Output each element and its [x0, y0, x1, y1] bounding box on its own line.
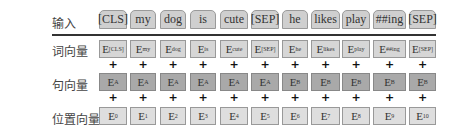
- embedding-subscript: likes: [323, 46, 334, 52]
- plus-icon: +: [346, 60, 366, 70]
- embedding-base: E: [316, 43, 323, 55]
- embedding-base: E: [412, 43, 419, 55]
- embedding-subscript: 6: [297, 113, 300, 119]
- embedding-base: E: [198, 110, 205, 122]
- segment-embedding: EA: [99, 73, 127, 91]
- token-embedding: Eplay: [342, 40, 370, 58]
- embedding-subscript: 7: [327, 113, 330, 119]
- input-token: [CLS]: [99, 10, 127, 29]
- embedding-subscript: A: [204, 79, 208, 85]
- plus-icon: +: [413, 60, 433, 70]
- plus-icon: +: [163, 93, 183, 103]
- plus-icon: +: [285, 93, 305, 103]
- token-embedding: Elikes: [311, 40, 340, 58]
- embedding-subscript: A: [174, 79, 178, 85]
- input-token: likes: [311, 10, 340, 29]
- embedding-subscript: 9: [391, 113, 394, 119]
- segment-embedding: EB: [342, 73, 370, 91]
- input-token: ##ing: [373, 10, 406, 29]
- embedding-subscript: [SEP]: [261, 46, 275, 52]
- embedding-subscript: B: [357, 79, 361, 85]
- segment-embedding: EA: [160, 73, 186, 91]
- embedding-base: E: [320, 76, 327, 88]
- plus-icon: +: [103, 93, 123, 103]
- token-embedding: E##ing: [373, 40, 406, 58]
- embedding-base: E: [108, 110, 115, 122]
- embedding-base: E: [138, 110, 145, 122]
- input-token: cute: [220, 10, 248, 29]
- position-embedding: E5: [251, 107, 279, 125]
- embedding-base: E: [137, 76, 144, 88]
- row-label-input: 输入: [52, 14, 76, 32]
- embedding-base: E: [228, 76, 235, 88]
- embedding-subscript: A: [235, 79, 239, 85]
- position-embedding: E2: [160, 107, 186, 125]
- embedding-base: E: [290, 76, 297, 88]
- plus-icon: +: [255, 93, 275, 103]
- embedding-base: E: [198, 43, 205, 55]
- embedding-subscript: 0: [115, 113, 118, 119]
- segment-embedding: EA: [251, 73, 279, 91]
- embedding-base: E: [379, 43, 386, 55]
- token-embedding: E[CLS]: [99, 40, 127, 58]
- token-embedding: Ehe: [282, 40, 308, 58]
- embedding-base: E: [165, 43, 172, 55]
- position-embedding: E3: [190, 107, 216, 125]
- token-embedding: E[SEP]: [251, 40, 279, 58]
- input-token: he: [282, 10, 308, 29]
- embedding-base: E: [197, 76, 204, 88]
- plus-icon: +: [285, 60, 305, 70]
- token-embedding: E[SEP]: [409, 40, 436, 58]
- plus-icon: +: [380, 93, 400, 103]
- token-embedding: Ecute: [220, 40, 248, 58]
- embedding-base: E: [102, 43, 109, 55]
- plus-icon: +: [255, 60, 275, 70]
- token-embedding: Emy: [130, 40, 156, 58]
- embedding-subscript: 5: [267, 113, 270, 119]
- embedding-subscript: 3: [205, 113, 208, 119]
- embedding-base: E: [136, 43, 143, 55]
- embedding-base: E: [321, 110, 328, 122]
- input-token: my: [130, 10, 156, 29]
- position-embedding: E0: [99, 107, 127, 125]
- embedding-subscript: A: [144, 79, 148, 85]
- embedding-subscript: cute: [232, 46, 242, 52]
- embedding-subscript: B: [424, 79, 428, 85]
- input-token: is: [190, 10, 216, 29]
- embedding-subscript: [SEP]: [419, 46, 433, 52]
- embedding-subscript: 4: [236, 113, 239, 119]
- embedding-subscript: A: [266, 79, 270, 85]
- embedding-subscript: he: [296, 46, 302, 52]
- plus-icon: +: [224, 60, 244, 70]
- embedding-base: E: [351, 110, 358, 122]
- embedding-subscript: my: [143, 46, 151, 52]
- embedding-base: E: [385, 110, 392, 122]
- position-embedding: E6: [282, 107, 308, 125]
- input-token: [SEP]: [251, 10, 279, 29]
- plus-icon: +: [413, 93, 433, 103]
- row-label-position-embedding: 位置向量: [52, 110, 100, 128]
- embedding-base: E: [259, 76, 266, 88]
- input-token: play: [342, 10, 370, 29]
- plus-icon: +: [346, 93, 366, 103]
- position-embedding: E10: [409, 107, 436, 125]
- embedding-base: E: [229, 110, 236, 122]
- plus-icon: +: [316, 60, 336, 70]
- position-embedding: E8: [342, 107, 370, 125]
- plus-icon: +: [193, 60, 213, 70]
- input-token: [SEP]: [409, 10, 436, 29]
- embedding-base: E: [226, 43, 233, 55]
- segment-embedding: EA: [220, 73, 248, 91]
- row-label-token-embedding: 词向量: [52, 42, 88, 60]
- embedding-base: E: [351, 76, 358, 88]
- position-embedding: E9: [373, 107, 406, 125]
- embedding-base: E: [417, 76, 424, 88]
- embedding-subscript: play: [354, 46, 364, 52]
- embedding-base: E: [347, 43, 354, 55]
- position-embedding: E4: [220, 107, 248, 125]
- embedding-base: E: [260, 110, 267, 122]
- embedding-subscript: 1: [145, 113, 148, 119]
- embedding-base: E: [289, 43, 296, 55]
- plus-icon: +: [316, 93, 336, 103]
- row-label-segment-embedding: 句向量: [52, 76, 88, 94]
